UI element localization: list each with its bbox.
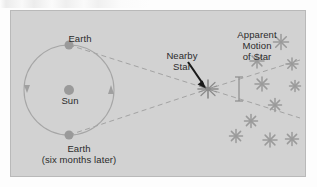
apparent-motion-extent	[235, 77, 243, 101]
label-earth-bottom: Earth (six months later)	[27, 143, 131, 165]
star-field-item	[263, 133, 277, 147]
star-field-item	[245, 115, 258, 128]
label-apparent-motion-line1: Apparent	[221, 29, 293, 40]
star-field-item	[286, 133, 299, 146]
label-earth-bottom-line1: Earth	[27, 143, 131, 154]
parallax-figure-frame: Earth Sun Earth (six months later) Nearb…	[10, 10, 306, 177]
scan-artifact	[0, 0, 317, 8]
star-field-item	[269, 99, 282, 112]
label-apparent-motion-line2: Motion	[221, 40, 293, 51]
label-nearby-star-line1: Nearby	[152, 50, 212, 61]
sun-icon	[64, 85, 74, 95]
orbit-arrow-left	[24, 85, 30, 93]
orbit-arrow-right	[108, 85, 114, 94]
label-earth-top: Earth	[55, 33, 105, 44]
star-field-item	[230, 130, 243, 143]
star-field-item	[255, 77, 269, 91]
label-earth-bottom-line2: (six months later)	[27, 154, 131, 165]
label-nearby-star-line2: Star	[152, 61, 212, 72]
earth-position-b-icon	[65, 131, 74, 140]
label-apparent-motion-line3: of Star	[221, 51, 293, 62]
label-sun: Sun	[45, 95, 95, 106]
star-field-item	[290, 81, 301, 92]
label-nearby-star: Nearby Star	[152, 50, 212, 72]
label-apparent-motion: Apparent Motion of Star	[221, 29, 293, 62]
figure-page: Earth Sun Earth (six months later) Nearb…	[0, 0, 317, 187]
